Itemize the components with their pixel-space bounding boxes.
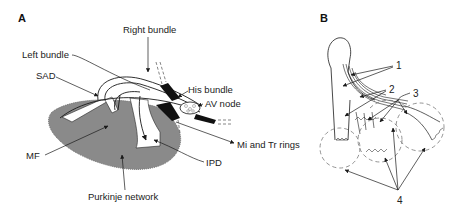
label-left-bundle: Left bundle xyxy=(22,49,69,60)
label-2: 2 xyxy=(389,84,395,95)
label-his-bundle: His bundle xyxy=(188,84,233,95)
label-mi-tr-rings: Mi and Tr rings xyxy=(237,139,300,150)
label-sad: SAD xyxy=(36,70,56,81)
label-av-node: AV node xyxy=(205,98,241,109)
label-purkinje-network: Purkinje network xyxy=(88,191,158,202)
label-1: 1 xyxy=(396,60,402,71)
label-ipd: IPD xyxy=(206,157,222,168)
av-node-shape xyxy=(180,102,200,114)
zone-right xyxy=(396,103,444,151)
av-black-right xyxy=(194,114,216,124)
panel-a-label: A xyxy=(18,12,26,24)
label-right-bundle: Right bundle xyxy=(123,24,176,35)
label-4: 4 xyxy=(397,195,403,206)
panel-b-label: B xyxy=(320,12,328,24)
figure-canvas: A Right bundle xyxy=(0,0,468,215)
septum-outline xyxy=(328,38,375,140)
label-mf: MF xyxy=(26,150,40,161)
panel-b: B 1 2 xyxy=(320,12,444,206)
panel-a: A Right bundle xyxy=(18,12,300,202)
zone-left xyxy=(320,128,360,168)
label-3: 3 xyxy=(413,88,419,99)
